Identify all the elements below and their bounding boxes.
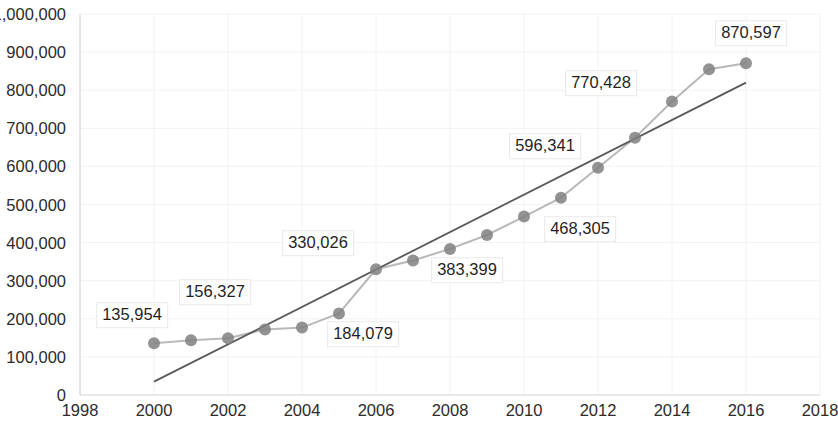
data-point-label: 870,597 [715, 20, 787, 46]
data-point-label: 468,305 [544, 216, 616, 242]
data-point-label: 135,954 [96, 302, 168, 328]
data-point-label: 596,341 [509, 133, 581, 159]
data-point-label: 383,399 [431, 257, 503, 283]
data-point-label: 330,026 [282, 230, 354, 256]
data-point-label: 156,327 [179, 279, 251, 305]
data-point-label: 770,428 [565, 70, 637, 96]
data-point-label: 184,079 [327, 321, 399, 347]
